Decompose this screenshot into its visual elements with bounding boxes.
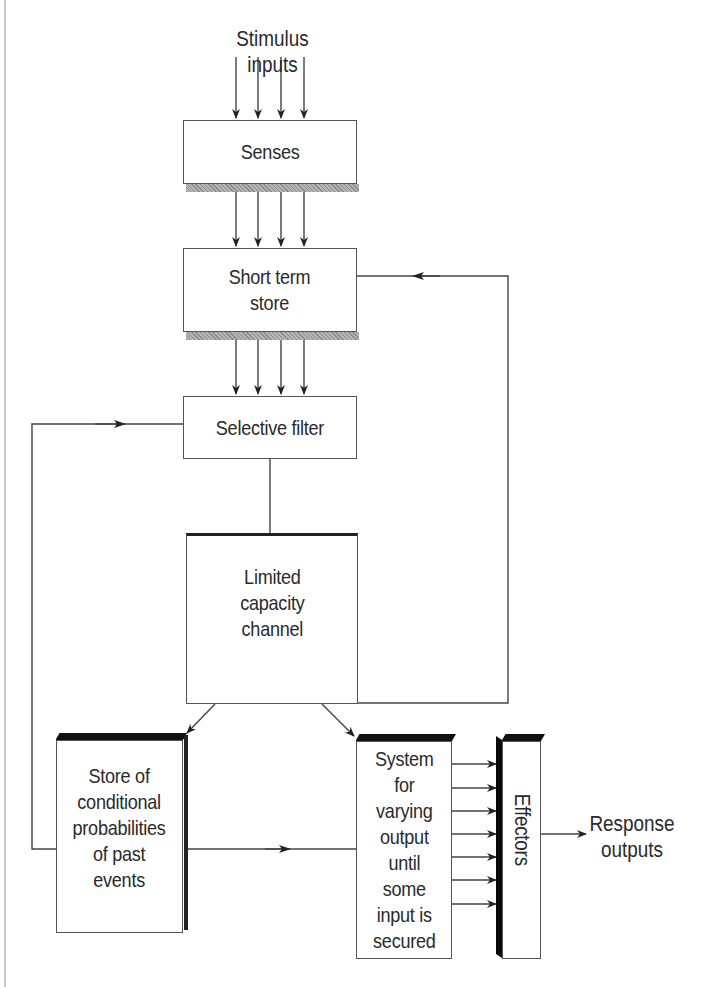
stimulus-inputs-label: Stimulus inputs bbox=[200, 26, 345, 78]
effectors-box: Effectors bbox=[502, 741, 541, 959]
senses-to-sts-arrows bbox=[236, 192, 304, 246]
sts-to-filter-arrows bbox=[236, 334, 304, 394]
limited-capacity-channel-box: Limited capacity channel bbox=[186, 533, 358, 704]
system-varying-output-box: System for varying output until some inp… bbox=[356, 741, 452, 959]
short-term-store-box: Short term store bbox=[183, 248, 357, 332]
senses-box: Senses bbox=[183, 120, 357, 184]
response-outputs-label: Response outputs bbox=[580, 811, 684, 863]
selective-filter-box: Selective filter bbox=[183, 396, 357, 459]
system-to-effectors-arrows bbox=[452, 764, 496, 904]
store-conditional-probabilities-box: Store of conditional probabilities of pa… bbox=[56, 740, 183, 933]
